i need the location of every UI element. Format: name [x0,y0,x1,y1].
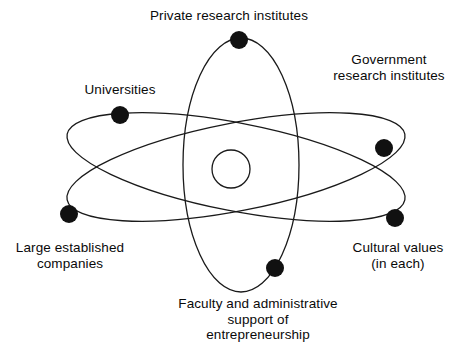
label-cultural-values: Cultural values (in each) [353,240,444,271]
label-faculty-support: Faculty and administrative support of en… [178,296,337,343]
electron-cultural-values [386,209,404,227]
electron-government-research-institutes [375,139,393,157]
electron-private-research-institutes [230,31,248,49]
vertical-orbit [183,38,299,292]
electron-universities [111,106,129,124]
label-large-established-companies: Large established companies [16,240,124,271]
label-universities: Universities [85,82,156,98]
label-private-research-institutes: Private research institutes [150,8,308,24]
label-government-research-institutes: Government research institutes [333,52,444,83]
atom-diagram: Private research institutes Government r… [0,0,458,356]
nucleus [212,150,250,188]
electron-faculty-support [266,259,284,277]
electron-large-established-companies [60,205,78,223]
